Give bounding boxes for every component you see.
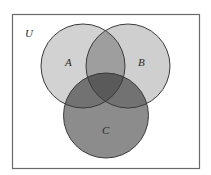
set-a-label: A — [64, 56, 72, 68]
set-b-label: B — [138, 56, 145, 68]
set-c-label: C — [102, 124, 110, 136]
universe-label: U — [25, 27, 34, 39]
venn-diagram: U A B C — [0, 0, 211, 175]
